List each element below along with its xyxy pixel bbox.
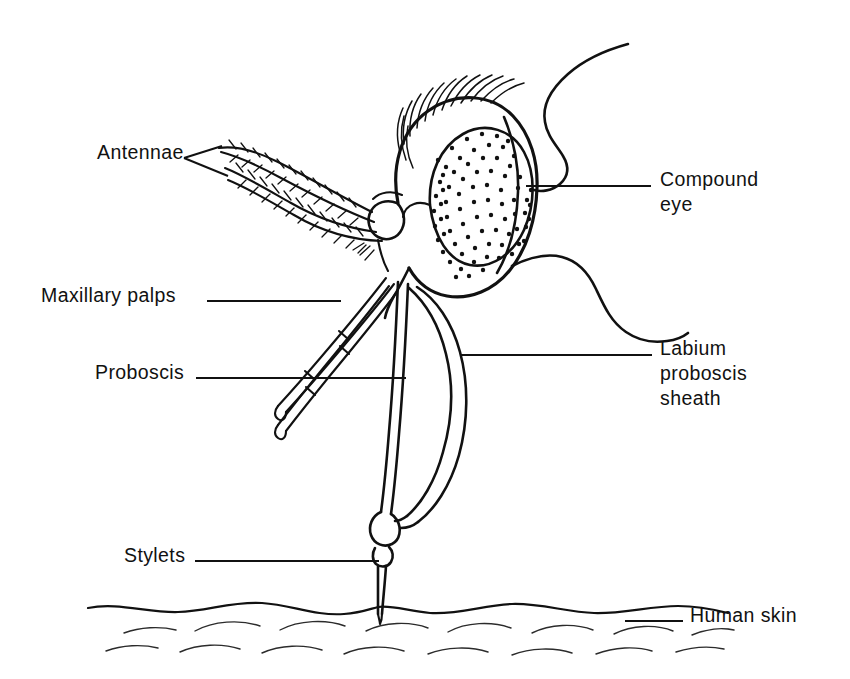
maxillary-palp-lower	[275, 286, 397, 439]
human-skin-surface	[88, 603, 734, 655]
label-compound-eye-line2: eye	[660, 193, 693, 215]
label-labium-line3: sheath	[660, 387, 721, 409]
label-maxillary-palps: Maxillary palps	[41, 284, 176, 306]
label-stylets: Stylets	[124, 544, 185, 566]
mosquito-anatomy-figure: Antennae Maxillary palps Proboscis Style…	[0, 0, 850, 679]
antenna-fibrillae	[229, 140, 374, 260]
leader-antennae-lower	[184, 158, 228, 176]
label-compound-eye-line1: Compound	[660, 168, 759, 190]
label-labium-line1: Labium	[660, 337, 726, 359]
label-human-skin: Human skin	[690, 604, 797, 626]
maxillary-palp-upper	[275, 278, 394, 420]
thorax-upper-contour	[534, 44, 628, 191]
leader-antennae-upper	[184, 146, 222, 158]
label-proboscis: Proboscis	[95, 361, 184, 383]
mosquito-anatomy-diagram: Antennae Maxillary palps Proboscis Style…	[0, 0, 850, 679]
label-antennae: Antennae	[97, 141, 184, 163]
stylet-bundle	[370, 282, 408, 624]
thorax-lower-contour	[512, 256, 688, 342]
label-labium-line2: proboscis	[660, 362, 747, 384]
leader-lines	[184, 146, 683, 621]
